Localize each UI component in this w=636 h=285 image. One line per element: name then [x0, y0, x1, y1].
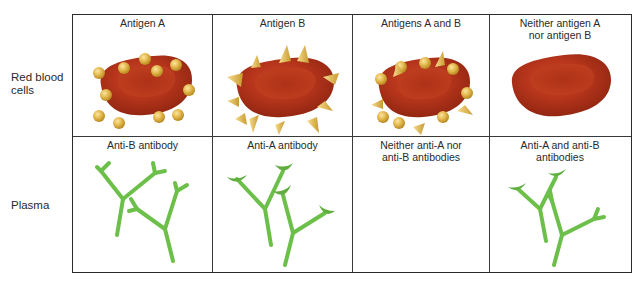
cell-rbc-antigen-a: Antigen A [73, 15, 212, 136]
cell-rbc-antigens-a-and-b: Antigens A and B [353, 15, 489, 136]
antibody-y-icon [518, 177, 556, 241]
red-blood-cell-icon [237, 57, 334, 117]
red-blood-cell-icon [512, 54, 611, 116]
rbc-plain-illustration [490, 15, 630, 136]
cell-plasma-anti-b: Anti-B antibody [73, 137, 212, 272]
antibody-y-icon [237, 171, 283, 245]
row-label-plasma: Plasma [11, 199, 49, 212]
antibody-y-icon [283, 195, 325, 265]
row-label-line: Red blood [11, 71, 63, 84]
cell-title-line: Neither anti-A nor [353, 139, 489, 151]
cell-rbc-antigen-b: Antigen B [213, 15, 352, 136]
cell-title-line: anti-B antibodies [353, 151, 489, 163]
anti-a-antibody-illustration [213, 137, 352, 272]
antibody-y-icon [129, 183, 187, 261]
antibody-y-icon [548, 191, 604, 265]
anti-b-antibody-illustration [73, 137, 212, 272]
cell-plasma-neither-antibody: Neither anti-A nor anti-B antibodies [353, 137, 489, 272]
cell-plasma-anti-a: Anti-A antibody [213, 137, 352, 272]
blood-type-table: Antigen A Antigen B [72, 14, 632, 273]
rbc-antigen-b-illustration [213, 15, 352, 136]
cell-plasma-anti-a-and-anti-b: Anti-A and anti-B antibodies [490, 137, 630, 272]
row-label-line: cells [11, 84, 63, 97]
rbc-antigen-a-illustration [73, 15, 212, 136]
rbc-antigens-ab-illustration [353, 15, 489, 136]
antigen-binding-cup-icon [508, 169, 566, 190]
row-label-red-blood-cells: Red blood cells [11, 71, 63, 97]
anti-a-and-anti-b-antibody-illustration [490, 137, 630, 272]
cell-title: Neither anti-A nor anti-B antibodies [353, 139, 489, 163]
cell-rbc-neither-antigen: Neither antigen A nor antigen B [490, 15, 630, 136]
